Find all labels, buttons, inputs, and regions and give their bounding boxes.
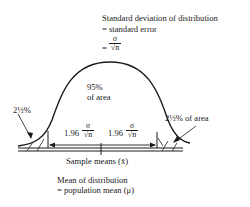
mean-label-line2: = population mean (μ)	[57, 185, 134, 195]
mean-label-line1: Mean of distribution	[57, 175, 128, 185]
left-tail-pointer-head	[27, 132, 33, 139]
sigma: σ	[109, 35, 121, 43]
arrowhead-right	[150, 143, 156, 148]
title-line1: Standard deviation of distribution	[102, 13, 218, 23]
center-label-line2: of area	[87, 92, 111, 102]
sqrt-n: √n	[109, 43, 121, 52]
se-prefix: =	[102, 43, 107, 53]
title-line2: = standard error	[102, 24, 157, 34]
sigma-over-sqrt-n: σ √n	[109, 35, 121, 52]
center-label-line1: 95%	[87, 82, 103, 92]
left-sigma-over-sqrt-n: σ √n	[82, 122, 94, 139]
bell-curve	[18, 62, 190, 146]
right-hatch	[172, 143, 177, 151]
right-sigma-over-sqrt-n: σ √n	[126, 122, 138, 139]
left-hatch	[37, 139, 44, 151]
left-interval-coef: 1.96	[64, 128, 79, 138]
right-hatch	[158, 138, 163, 146]
right-tail-label: 2½% of area	[165, 113, 209, 123]
arrowhead-left	[49, 143, 55, 148]
right-interval-coef: 1.96	[108, 128, 123, 138]
x-axis-label: Sample means (x̄)	[66, 156, 128, 166]
left-tail-label: 2½%	[13, 105, 31, 115]
